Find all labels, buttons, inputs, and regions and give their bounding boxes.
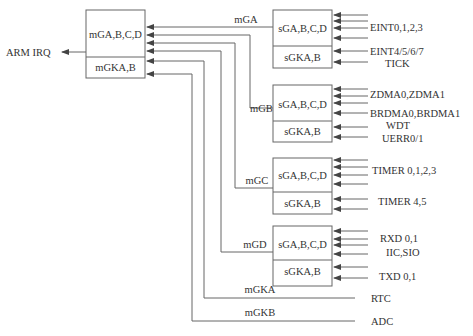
mgb-label: mGB [250, 103, 273, 114]
source-iic-sio: IIC,SIO [386, 247, 420, 258]
source-eint4-7: EINT4/5/6/7 [370, 46, 424, 57]
sub-a-mask-label: sGA,B,C,D [278, 23, 327, 34]
main-controller-box: mGA,B,C,D mGKA,B [86, 10, 145, 78]
sub-a-key-mask-label: sGKA,B [284, 52, 320, 63]
source-rxd: RXD 0,1 [380, 233, 418, 244]
mga-connection: mGA [147, 14, 273, 27]
sub-b-key-mask-label: sGKA,B [284, 126, 320, 137]
sub-b-mask-label: sGA,B,C,D [278, 99, 327, 110]
mgd-connection: mGD [147, 51, 273, 252]
source-timer0-3: TIMER 0,1,2,3 [372, 165, 436, 176]
interrupt-controller-diagram: ARM IRQ mGA,B,C,D mGKA,B mGA mGB mGC mGD… [0, 0, 473, 336]
arm-irq-output: ARM IRQ [6, 47, 86, 58]
source-uerr: UERR0/1 [382, 133, 423, 144]
source-wdt: WDT [386, 120, 410, 131]
mgka-label: mGKA [245, 284, 276, 295]
sub-controller-b: sGA,B,C,D sGKA,B ZDMA0,ZDMA1 BRDMA0,BRDM… [273, 85, 460, 144]
main-key-mask-label: mGKA,B [95, 62, 136, 73]
sub-controller-c: sGA,B,C,D sGKA,B TIMER 0,1,2,3 TIMER 4,5 [273, 158, 436, 214]
rtc-label: RTC [371, 293, 391, 304]
main-mask-label: mGA,B,C,D [89, 29, 142, 40]
sub-c-key-mask-label: sGKA,B [284, 198, 320, 209]
sub-controller-d: sGA,B,C,D sGKA,B RXD 0,1 IIC,SIO TXD 0,1 [273, 226, 420, 286]
mgd-label: mGD [243, 239, 267, 250]
mgkb-label: mGKB [245, 307, 275, 318]
source-tick: TICK [385, 58, 410, 69]
sub-d-mask-label: sGA,B,C,D [278, 239, 327, 250]
source-txd: TXD 0,1 [379, 271, 416, 282]
mgc-connection: mGC [147, 43, 273, 188]
source-brdma: BRDMA0,BRDMA1 [370, 108, 460, 119]
source-eint0-3: EINT0,1,2,3 [370, 22, 423, 33]
source-timer4-5: TIMER 4,5 [378, 196, 426, 207]
adc-label: ADC [371, 316, 393, 327]
mgc-label: mGC [246, 175, 269, 186]
arm-irq-label: ARM IRQ [6, 47, 51, 58]
source-zdma: ZDMA0,ZDMA1 [370, 89, 445, 100]
sub-d-key-mask-label: sGKA,B [284, 266, 320, 277]
mgka-connection: mGKA RTC [147, 61, 391, 304]
sub-c-mask-label: sGA,B,C,D [278, 170, 327, 181]
sub-controller-a: sGA,B,C,D sGKA,B EINT0,1,2,3 EINT4/5/6/7… [273, 10, 424, 69]
mga-label: mGA [234, 14, 258, 25]
